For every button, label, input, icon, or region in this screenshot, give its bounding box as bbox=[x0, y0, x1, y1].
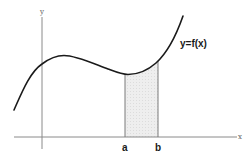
lower-bound-label: a bbox=[122, 142, 128, 153]
upper-bound-label: b bbox=[155, 142, 161, 153]
y-axis-label: y bbox=[39, 8, 44, 16]
integral-diagram: y x a b y=f(x) bbox=[0, 0, 245, 156]
x-axis-label: x bbox=[238, 133, 242, 141]
function-label: y=f(x) bbox=[180, 38, 207, 49]
shaded-area-region bbox=[118, 58, 160, 137]
